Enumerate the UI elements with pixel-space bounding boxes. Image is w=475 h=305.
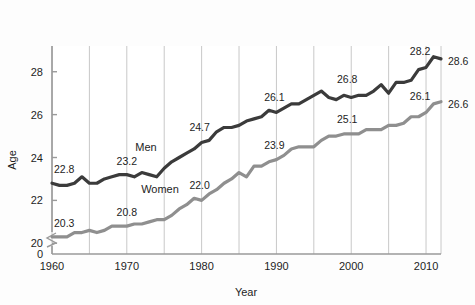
point-label-men-2012: 28.6 xyxy=(448,55,469,67)
x-tick-label-1980: 1980 xyxy=(189,260,213,272)
point-label-men-1980: 24.7 xyxy=(189,121,210,133)
point-label-women-2012: 26.6 xyxy=(448,98,469,110)
chart-figure: 02022242628 196019701980199020002010 22.… xyxy=(0,0,475,305)
point-label-men-2000: 26.8 xyxy=(337,73,358,85)
y-axis-title: Age xyxy=(6,150,18,170)
point-label-women-1980: 22.0 xyxy=(189,179,210,191)
line-chart: 02022242628 196019701980199020002010 22.… xyxy=(0,0,475,305)
point-label-women-1990: 23.9 xyxy=(264,139,285,151)
y-tick-label-24: 24 xyxy=(31,152,43,164)
point-label-men-1990: 26.1 xyxy=(264,91,285,103)
y-tick-label-28: 28 xyxy=(31,66,43,78)
y-tick-label-0: 0 xyxy=(37,248,43,260)
y-tick-label-20: 20 xyxy=(31,237,43,249)
y-tick-label-26: 26 xyxy=(31,109,43,121)
point-label-women-1970: 20.8 xyxy=(117,206,138,218)
point-label-men-1960: 22.8 xyxy=(54,163,75,175)
point-label-women-2010: 26.1 xyxy=(410,90,431,102)
point-label-women-1960: 20.3 xyxy=(54,217,75,229)
point-label-men-2010: 28.2 xyxy=(410,45,431,57)
point-label-women-2000: 25.1 xyxy=(337,113,358,125)
x-tick-label-1960: 1960 xyxy=(40,260,64,272)
series-label-men: Men xyxy=(135,141,156,153)
x-tick-label-1990: 1990 xyxy=(264,260,288,272)
series-label-women: Women xyxy=(141,183,179,195)
x-axis-title: Year xyxy=(235,286,258,298)
x-tick-label-2000: 2000 xyxy=(339,260,363,272)
x-tick-label-1970: 1970 xyxy=(115,260,139,272)
y-tick-label-22: 22 xyxy=(31,194,43,206)
point-label-men-1970: 23.2 xyxy=(117,155,138,167)
x-tick-label-2010: 2010 xyxy=(414,260,438,272)
plot-area-background xyxy=(52,46,441,254)
